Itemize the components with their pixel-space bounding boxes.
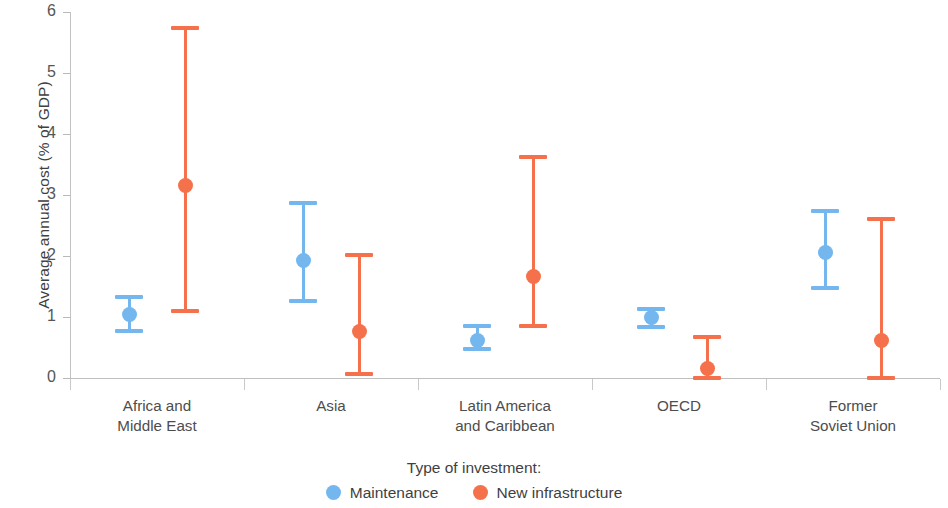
x-axis-category-label: Latin America and Caribbean xyxy=(418,396,592,436)
error-bar-upper-cap xyxy=(811,209,839,213)
legend-swatch-icon xyxy=(326,485,341,500)
error-bar-lower-cap xyxy=(637,325,665,329)
category-separator-tick xyxy=(244,379,245,390)
category-separator-tick xyxy=(418,379,419,390)
data-point-marker xyxy=(122,307,137,322)
error-bar-stem xyxy=(358,255,361,373)
legend-item-label: Maintenance xyxy=(350,485,439,501)
y-axis-tick-mark xyxy=(63,317,70,318)
legend-item[interactable]: Maintenance xyxy=(326,485,439,501)
error-bar-lower-cap xyxy=(519,324,547,328)
y-axis-line xyxy=(70,12,71,378)
error-bar-lower-cap xyxy=(867,376,895,380)
legend-item[interactable]: New infrastructure xyxy=(473,485,623,501)
legend-title: Type of investment: xyxy=(0,459,948,477)
error-bar-upper-cap xyxy=(867,217,895,221)
category-separator-tick xyxy=(766,379,767,390)
data-point-marker xyxy=(700,361,715,376)
data-point-marker xyxy=(874,333,889,348)
data-point-marker xyxy=(470,333,485,348)
y-axis-tick-mark xyxy=(63,12,70,13)
y-axis-tick-mark xyxy=(63,256,70,257)
legend-swatch-icon xyxy=(473,485,488,500)
error-bar-lower-cap xyxy=(289,299,317,303)
error-bar-lower-cap xyxy=(345,372,373,376)
x-axis-category-label: Africa and Middle East xyxy=(70,396,244,436)
y-axis-tick-mark xyxy=(63,134,70,135)
data-point-marker xyxy=(352,324,367,339)
y-axis-tick-label: 6 xyxy=(30,3,56,19)
y-axis-tick-mark xyxy=(63,73,70,74)
error-bar-upper-cap xyxy=(289,201,317,205)
data-point-marker xyxy=(178,178,193,193)
data-point-marker xyxy=(818,245,833,260)
error-bar-upper-cap xyxy=(171,26,199,30)
error-bar-stem xyxy=(880,219,883,378)
error-bar-upper-cap xyxy=(463,324,491,328)
y-axis-tick-mark xyxy=(63,195,70,196)
x-axis-category-label: OECD xyxy=(592,396,766,416)
error-bar-stem xyxy=(302,203,305,301)
legend-item-label: New infrastructure xyxy=(497,485,623,501)
error-bar-lower-cap xyxy=(115,329,143,333)
y-axis-tick-label: 4 xyxy=(30,125,56,141)
error-bar-stem xyxy=(532,157,535,326)
x-axis-category-label: Asia xyxy=(244,396,418,416)
error-bar-upper-cap xyxy=(345,253,373,257)
y-axis-tick-label: 1 xyxy=(30,308,56,324)
x-axis-line xyxy=(70,378,940,379)
error-bar-lower-cap xyxy=(811,286,839,290)
chart-container: Average annual cost (% of GDP) 0123456 A… xyxy=(0,0,948,508)
y-axis-tick-label: 5 xyxy=(30,64,56,80)
category-separator-tick xyxy=(70,379,71,390)
y-axis-tick-label: 0 xyxy=(30,369,56,385)
data-point-marker xyxy=(526,269,541,284)
data-point-marker xyxy=(644,310,659,325)
legend: MaintenanceNew infrastructure xyxy=(0,485,948,501)
y-axis-tick-label: 2 xyxy=(30,247,56,263)
error-bar-upper-cap xyxy=(693,335,721,339)
error-bar-upper-cap xyxy=(115,295,143,299)
error-bar-lower-cap xyxy=(171,309,199,313)
data-point-marker xyxy=(296,253,311,268)
category-separator-tick xyxy=(940,379,941,390)
error-bar-lower-cap xyxy=(693,376,721,380)
error-bar-upper-cap xyxy=(519,155,547,159)
x-axis-category-label: Former Soviet Union xyxy=(766,396,940,436)
category-separator-tick xyxy=(592,379,593,390)
y-axis-tick-label: 3 xyxy=(30,186,56,202)
y-axis-tick-mark xyxy=(63,378,70,379)
error-bar-stem xyxy=(184,28,187,310)
